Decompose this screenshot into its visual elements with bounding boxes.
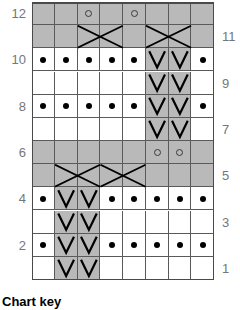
- chart-cell: [146, 95, 169, 118]
- chart-cell: [169, 2, 192, 25]
- chart-cell: [191, 164, 214, 187]
- chart-cell: [78, 25, 101, 48]
- chart-cell: [146, 72, 169, 95]
- purl-dot-icon: [109, 103, 115, 109]
- chart-cell: [32, 25, 55, 48]
- chart-cell: [123, 72, 146, 95]
- row-number-right: 5: [222, 169, 240, 182]
- chart-cell: [146, 211, 169, 234]
- chart-cell: [32, 211, 55, 234]
- chart-cell: [78, 141, 101, 164]
- chart-cell: [169, 211, 192, 234]
- chart-cell: [169, 72, 192, 95]
- chart-cell: [146, 257, 169, 280]
- row-number-left: 10: [2, 53, 26, 66]
- chart-cell: [55, 141, 78, 164]
- row-number-left: 2: [2, 239, 26, 252]
- purl-dot-icon: [200, 103, 206, 109]
- chart-cell: [32, 141, 55, 164]
- chart-cell: [100, 118, 123, 141]
- chart-cell: [169, 118, 192, 141]
- row-number-left: 6: [2, 146, 26, 159]
- chart-cell: [55, 257, 78, 280]
- chart-cell: [55, 164, 78, 187]
- purl-dot-icon: [200, 242, 206, 248]
- purl-dot-icon: [177, 196, 183, 202]
- chart-cell: [55, 2, 78, 25]
- chart-grid: [32, 2, 214, 280]
- purl-dot-icon: [200, 196, 206, 202]
- chart-cell: [146, 2, 169, 25]
- yarn-over-circle-icon: [154, 149, 161, 156]
- row-number-left: 4: [2, 192, 26, 205]
- chart-cell: [100, 257, 123, 280]
- chart-cell: [100, 2, 123, 25]
- chart-cell: [100, 211, 123, 234]
- chart-cell: [32, 118, 55, 141]
- chart-cell: [78, 211, 101, 234]
- chart-cell: [78, 187, 101, 210]
- chart-cell: [191, 257, 214, 280]
- chart-cell: [78, 118, 101, 141]
- chart-cell: [191, 118, 214, 141]
- chart-cell: [55, 234, 78, 257]
- chart-cell: [32, 2, 55, 25]
- purl-dot-icon: [109, 196, 115, 202]
- knitting-chart: 121086421197531: [0, 0, 240, 284]
- yarn-over-circle-icon: [131, 10, 138, 17]
- chart-cell: [146, 164, 169, 187]
- chart-cell: [78, 257, 101, 280]
- purl-dot-icon: [109, 57, 115, 63]
- chart-key-heading: Chart key: [2, 294, 61, 309]
- chart-cell: [100, 72, 123, 95]
- chart-cell: [191, 141, 214, 164]
- chart-cell: [169, 164, 192, 187]
- purl-dot-icon: [86, 57, 92, 63]
- row-number-right: 9: [222, 77, 240, 90]
- chart-cell: [123, 141, 146, 164]
- chart-cell: [100, 25, 123, 48]
- chart-cell: [123, 164, 146, 187]
- chart-cell: [146, 25, 169, 48]
- chart-cell: [100, 164, 123, 187]
- chart-cell: [55, 25, 78, 48]
- chart-cell: [191, 72, 214, 95]
- purl-dot-icon: [200, 57, 206, 63]
- chart-cell: [146, 48, 169, 71]
- purl-dot-icon: [109, 242, 115, 248]
- row-number-right: 7: [222, 123, 240, 136]
- row-number-right: 11: [222, 30, 240, 43]
- chart-cell: [100, 141, 123, 164]
- chart-cell: [169, 25, 192, 48]
- chart-cell: [78, 164, 101, 187]
- chart-cell: [191, 25, 214, 48]
- chart-cell: [78, 72, 101, 95]
- chart-cell: [191, 2, 214, 25]
- row-number-left: 12: [2, 7, 26, 20]
- chart-cell: [123, 257, 146, 280]
- chart-cell: [55, 187, 78, 210]
- chart-cell: [123, 25, 146, 48]
- chart-cell: [32, 72, 55, 95]
- chart-cell: [123, 118, 146, 141]
- row-number-right: 1: [222, 262, 240, 275]
- chart-cell: [55, 118, 78, 141]
- chart-cell: [55, 211, 78, 234]
- chart-cell: [146, 118, 169, 141]
- chart-cell: [169, 95, 192, 118]
- chart-cell: [78, 234, 101, 257]
- purl-dot-icon: [63, 57, 69, 63]
- row-number-right: 3: [222, 216, 240, 229]
- chart-cell: [55, 72, 78, 95]
- chart-cell: [123, 211, 146, 234]
- chart-cell: [169, 48, 192, 71]
- row-number-left: 8: [2, 100, 26, 113]
- chart-cell: [191, 211, 214, 234]
- chart-cell: [32, 164, 55, 187]
- purl-dot-icon: [154, 196, 160, 202]
- chart-cell: [169, 257, 192, 280]
- chart-cell: [32, 257, 55, 280]
